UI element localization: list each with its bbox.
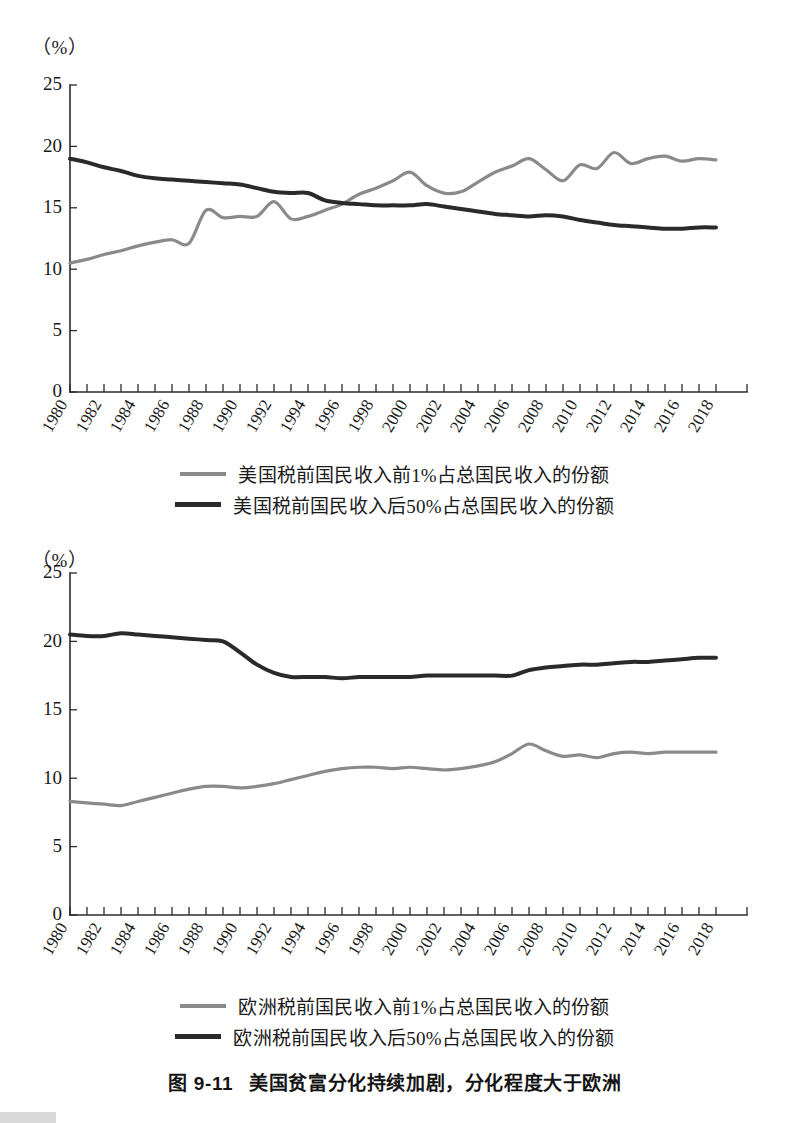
x-tick-label: 1980 <box>38 920 71 959</box>
chart-europe-block: （%） 051015202519801982198419861988199019… <box>0 535 790 1060</box>
x-tick-label: 1990 <box>208 920 241 959</box>
x-tick-label: 2018 <box>684 397 717 436</box>
legend-label-us-bottom50: 美国税前国民收入后50%占总国民收入的份额 <box>233 491 614 518</box>
x-tick-label: 2008 <box>514 397 547 436</box>
x-tick-label: 1984 <box>106 396 140 435</box>
x-tick-label: 2018 <box>684 920 717 959</box>
x-tick-label: 1996 <box>310 920 343 959</box>
y-tick-label: 10 <box>43 767 62 788</box>
x-tick-label: 2012 <box>582 397 615 436</box>
x-tick-label: 2002 <box>412 397 445 436</box>
x-tick-label: 2016 <box>650 920 683 959</box>
x-tick-label: 1982 <box>72 920 105 959</box>
y-tick-label: 5 <box>53 319 63 340</box>
x-tick-label: 2010 <box>548 397 581 436</box>
series-line-1 <box>70 159 716 229</box>
x-tick-label: 2006 <box>480 397 513 436</box>
y-tick-label: 20 <box>43 630 62 651</box>
x-tick-label: 1994 <box>276 919 310 958</box>
y-tick-label: 15 <box>43 698 62 719</box>
x-tick-label: 2000 <box>378 920 411 959</box>
x-tick-label: 1998 <box>344 397 377 436</box>
x-tick-label: 1982 <box>72 397 105 436</box>
chart-us-plot: 0510152025198019821984198619881990199219… <box>0 0 790 460</box>
legend-label-eu-top1: 欧洲税前国民收入前1%占总国民收入的份额 <box>238 992 609 1019</box>
x-tick-label: 1994 <box>276 396 310 435</box>
chart-us-unit-label: （%） <box>32 32 87 59</box>
chart-europe-unit-label: （%） <box>32 545 87 572</box>
figure-page: （%） 051015202519801982198419861988199019… <box>0 0 790 1123</box>
y-tick-label: 20 <box>43 135 62 156</box>
legend-item-us-bottom50: 美国税前国民收入后50%占总国民收入的份额 <box>175 491 614 518</box>
x-tick-label: 2006 <box>480 920 513 959</box>
x-tick-label: 1986 <box>140 397 173 436</box>
y-tick-label: 5 <box>53 835 63 856</box>
x-tick-label: 1992 <box>242 920 275 959</box>
x-tick-label: 1996 <box>310 397 343 436</box>
x-tick-label: 1980 <box>38 397 71 436</box>
figure-caption-text: 美国贫富分化持续加剧，分化程度大于欧洲 <box>249 1073 621 1094</box>
figure-number: 图 9-11 <box>168 1073 233 1094</box>
x-tick-label: 2000 <box>378 397 411 436</box>
chart-us-block: （%） 051015202519801982198419861988199019… <box>0 0 790 535</box>
x-tick-label: 1988 <box>174 397 207 436</box>
legend-swatch-eu-bottom50 <box>175 1034 221 1039</box>
x-tick-label: 2016 <box>650 397 683 436</box>
legend-item-eu-bottom50: 欧洲税前国民收入后50%占总国民收入的份额 <box>175 1023 614 1050</box>
x-tick-label: 2004 <box>446 396 480 435</box>
series-line-1 <box>70 633 716 678</box>
page-edge-mark <box>0 1112 56 1123</box>
x-tick-label: 1988 <box>174 920 207 959</box>
x-tick-label: 2012 <box>582 920 615 959</box>
series-line-0 <box>70 152 716 263</box>
series-line-0 <box>70 744 716 806</box>
legend-swatch-us-bottom50 <box>175 502 221 507</box>
figure-caption: 图 9-11美国贫富分化持续加剧，分化程度大于欧洲 <box>0 1068 790 1095</box>
x-tick-label: 2002 <box>412 920 445 959</box>
x-tick-label: 2010 <box>548 920 581 959</box>
x-tick-label: 2008 <box>514 920 547 959</box>
x-tick-label: 1986 <box>140 920 173 959</box>
legend-label-us-top1: 美国税前国民收入前1%占总国民收入的份额 <box>238 460 609 487</box>
x-tick-label: 1992 <box>242 397 275 436</box>
y-tick-label: 25 <box>43 73 62 94</box>
y-tick-label: 10 <box>43 258 62 279</box>
legend-item-us-top1: 美国税前国民收入前1%占总国民收入的份额 <box>180 460 609 487</box>
legend-label-eu-bottom50: 欧洲税前国民收入后50%占总国民收入的份额 <box>233 1023 614 1050</box>
y-tick-label: 15 <box>43 196 62 217</box>
x-tick-label: 1990 <box>208 397 241 436</box>
x-tick-label: 1998 <box>344 920 377 959</box>
chart-europe-plot: 0510152025198019821984198619881990199219… <box>0 535 790 995</box>
chart-europe-legend: 欧洲税前国民收入前1%占总国民收入的份额 欧洲税前国民收入后50%占总国民收入的… <box>0 992 790 1050</box>
x-tick-label: 2014 <box>616 396 650 435</box>
chart-us-legend: 美国税前国民收入前1%占总国民收入的份额 美国税前国民收入后50%占总国民收入的… <box>0 460 790 518</box>
x-tick-label: 1984 <box>106 919 140 958</box>
legend-swatch-eu-top1 <box>180 1004 226 1008</box>
legend-swatch-us-top1 <box>180 472 226 476</box>
x-tick-label: 2004 <box>446 919 480 958</box>
legend-item-eu-top1: 欧洲税前国民收入前1%占总国民收入的份额 <box>180 992 609 1019</box>
x-tick-label: 2014 <box>616 919 650 958</box>
